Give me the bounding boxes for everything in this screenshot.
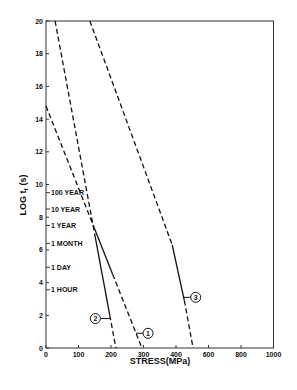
- series-3-label: 3: [194, 294, 198, 301]
- x-tick-label: 600: [203, 351, 215, 358]
- y-tick-label: 14: [35, 116, 43, 123]
- x-axis-title: STRESS(MPa): [130, 356, 191, 366]
- x-tick-label: 800: [235, 351, 247, 358]
- y-tick-label: 18: [35, 50, 43, 57]
- series-1-dashed-segment: [113, 274, 142, 348]
- time-annotation-label: 1 YEAR: [51, 222, 76, 229]
- y-axis-title-main: LOG t: [18, 191, 28, 216]
- series-3-dashed-segment: [90, 21, 172, 245]
- time-annotation-label: 1 DAY: [51, 264, 71, 271]
- time-annotation-label: 10 YEAR: [51, 206, 80, 213]
- y-tick-label: 10: [35, 181, 43, 188]
- y-tick-label: 0: [39, 345, 43, 352]
- time-annotations: 100 YEAR10 YEAR1 YEAR1 MONTH1 DAY1 HOUR: [46, 189, 84, 293]
- x-tick-label: 0: [44, 351, 48, 358]
- series-3-dashed-segment: [184, 301, 193, 348]
- series-2-label: 2: [93, 315, 97, 322]
- y-tick-label: 2: [39, 312, 43, 319]
- y-tick-label: 6: [39, 246, 43, 253]
- y-axis-title-sub: f: [23, 188, 29, 191]
- svg-text:LOG tf(s): LOG tf(s): [18, 174, 29, 215]
- y-tick-label: 8: [39, 214, 43, 221]
- x-tick-label: 1000: [266, 351, 282, 358]
- y-axis-title: LOG tf(s): [18, 174, 29, 215]
- plot-frame: [46, 21, 274, 348]
- y-tick-label: 16: [35, 83, 43, 90]
- series-2-dashed-segment: [55, 21, 95, 234]
- series-2-dashed-segment: [110, 315, 116, 348]
- series-1-label: 1: [146, 330, 150, 337]
- y-tick-label: 12: [35, 148, 43, 155]
- series-3-solid-segment: [172, 245, 184, 301]
- x-tick-label: 100: [73, 351, 85, 358]
- y-axis-ticks: 02468101214161820: [35, 18, 49, 352]
- y-tick-label: 20: [35, 18, 43, 25]
- y-tick-label: 4: [39, 279, 43, 286]
- series-lines: 123: [46, 21, 201, 348]
- time-annotation-label: 1 HOUR: [51, 286, 77, 293]
- chart: 01002003004006008001000 0246810121416182…: [0, 0, 297, 390]
- time-annotation-label: 1 MONTH: [51, 240, 83, 247]
- series-2-solid-segment: [95, 234, 110, 316]
- y-axis-title-unit: (s): [18, 174, 28, 185]
- x-tick-label: 200: [105, 351, 117, 358]
